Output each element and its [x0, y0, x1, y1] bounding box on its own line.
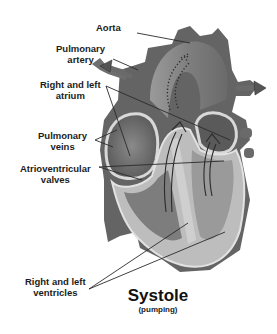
- right-atrium: [106, 114, 158, 179]
- label-pulmonary-veins: Pulmonary veins: [38, 130, 87, 152]
- heart-systole-diagram: Aorta Pulmonary artery Right and left at…: [0, 0, 277, 334]
- label-pulmonary-artery: Pulmonary artery: [56, 43, 105, 65]
- diagram-subtitle: (pumping): [118, 305, 198, 314]
- label-atrioventricular-valves: Atrioventricular valves: [20, 163, 91, 185]
- diagram-title: Systole: [118, 287, 198, 305]
- label-aorta: Aorta: [96, 22, 121, 33]
- left-atrium: [196, 113, 236, 153]
- label-right-and-left-atrium: Right and left atrium: [40, 79, 101, 101]
- label-right-and-left-ventricles: Right and left ventricles: [25, 276, 86, 298]
